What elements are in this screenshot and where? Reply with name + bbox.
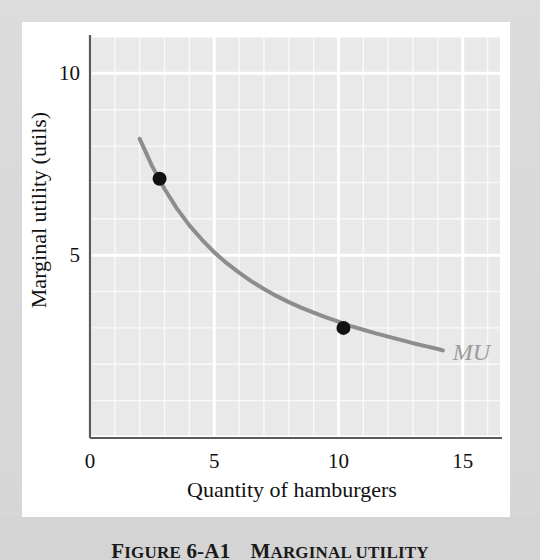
plot-wrapper: 510 051015 MU Marginal utility (utils) Q…: [22, 22, 510, 517]
point-b: [336, 321, 350, 335]
x-tick-0: 0: [85, 449, 96, 474]
figure-caption-band: FIGURE 6-A1MARGINAL UTILITY: [0, 517, 540, 560]
x-axis-title: Quantity of hamburgers: [82, 477, 502, 503]
figure-caption: FIGURE 6-A1MARGINAL UTILITY: [0, 539, 540, 560]
series-layer: [90, 37, 500, 437]
x-tick-5: 5: [209, 449, 220, 474]
point-a: [153, 172, 167, 186]
data-point-group: [153, 172, 351, 335]
figure-root: 510 051015 MU Marginal utility (utils) Q…: [0, 0, 540, 560]
mu-curve: [140, 139, 443, 351]
x-tick-15: 15: [452, 449, 473, 474]
figure-page-panel: 510 051015 MU Marginal utility (utils) Q…: [22, 22, 510, 517]
x-tick-10: 10: [328, 449, 349, 474]
y-axis-title: Marginal utility (utils): [26, 45, 52, 375]
mu-curve-label: MU: [453, 339, 490, 366]
